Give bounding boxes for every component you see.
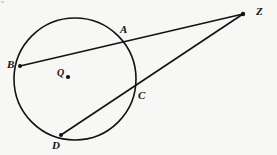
point-label-c: C [138, 90, 145, 101]
geometry-figure: A B C D Z Q [0, 0, 277, 155]
secant-line-zcd [61, 14, 243, 135]
geometry-canvas [0, 0, 277, 155]
point-label-a: A [120, 24, 127, 35]
vertex-dot-d [59, 133, 63, 137]
circle-q [14, 18, 136, 140]
center-dot-q [66, 75, 70, 79]
point-label-d: D [52, 140, 60, 151]
vertex-dot-z [241, 12, 245, 16]
vertex-dot-b [18, 64, 22, 68]
point-label-b: B [7, 59, 14, 70]
point-label-z: Z [256, 6, 263, 17]
center-label-q: Q [57, 68, 64, 78]
